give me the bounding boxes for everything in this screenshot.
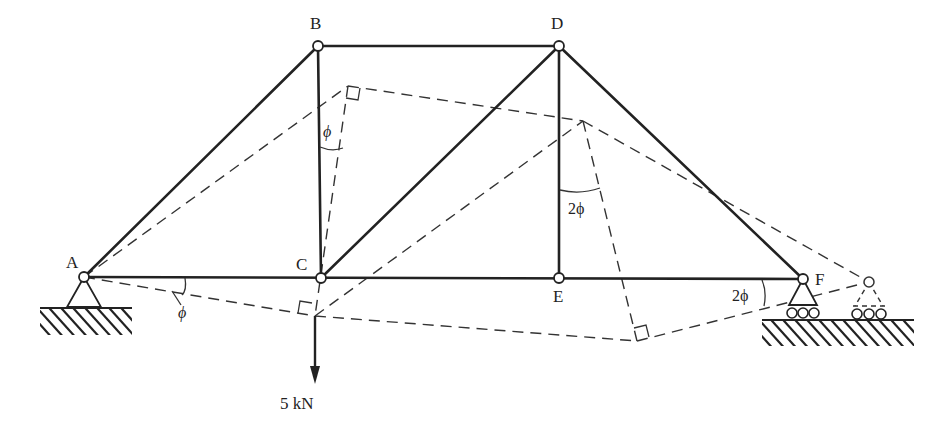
displaced-member-de: [583, 121, 637, 341]
angle-arc-2phi-f: [762, 280, 765, 306]
angle-label-2phi-f: 2ϕ: [732, 287, 748, 305]
truss-diagram: A B C D E F 5 kN ϕ ϕ 2ϕ 2ϕ: [0, 0, 943, 423]
displaced-member-ef: [637, 282, 869, 341]
load-arrow: [310, 316, 320, 384]
joint-c: [316, 273, 326, 283]
member-ab: [84, 46, 318, 277]
joint-e: [554, 273, 564, 283]
angle-label-phi-bc: ϕ: [323, 123, 331, 141]
joint-b: [313, 41, 323, 51]
right-angle-markers: [298, 88, 649, 337]
displaced-member-ce: [315, 316, 637, 341]
displaced-joint-f: [864, 277, 874, 287]
joint-d: [554, 41, 564, 51]
angle-arcs: [172, 147, 765, 306]
load-label: 5 kN: [280, 394, 314, 413]
pin-support-a: [18, 277, 150, 340]
angle-label-2phi-de: 2ϕ: [568, 200, 584, 218]
joint-f: [798, 274, 808, 284]
member-bc: [318, 46, 321, 278]
label-e: E: [553, 287, 563, 306]
label-d: D: [551, 14, 563, 33]
member-acef-chord: [84, 277, 803, 279]
displaced-member-bd: [348, 86, 583, 121]
displaced-member-df: [583, 121, 869, 282]
label-c: C: [296, 255, 307, 274]
member-cd: [321, 46, 559, 278]
right-angle-marker-c: [298, 301, 312, 313]
member-df: [559, 46, 803, 279]
label-f: F: [815, 270, 824, 289]
arrow-head-icon: [310, 366, 320, 384]
ground-hatch-f: [740, 312, 932, 352]
displaced-shape: [84, 86, 869, 341]
labels: A B C D E F 5 kN ϕ ϕ 2ϕ 2ϕ: [66, 14, 824, 413]
displaced-member-ac: [84, 277, 315, 316]
label-a: A: [66, 253, 79, 272]
ground-f: [740, 312, 932, 352]
angle-arc-2phi-de: [560, 188, 600, 192]
angle-label-phi-a: ϕ: [178, 304, 186, 322]
displaced-member-ab: [84, 86, 348, 277]
joint-a: [79, 272, 89, 282]
angle-arc-phi-a: [182, 278, 186, 295]
truss-members: [84, 46, 803, 279]
label-b: B: [310, 14, 321, 33]
displaced-member-cd: [315, 121, 583, 316]
